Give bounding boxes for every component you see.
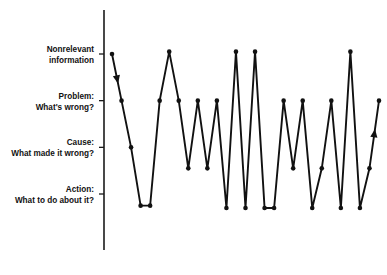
data-point-marker <box>215 98 220 103</box>
y-axis-group <box>99 10 104 250</box>
y-axis-label-2: Problem:What's wrong? <box>36 92 94 112</box>
data-point-marker <box>339 206 344 211</box>
chart-page: NonrelevantinformationProblem:What's wro… <box>0 0 387 275</box>
data-point-marker <box>300 98 305 103</box>
data-point-marker <box>272 206 277 211</box>
y-axis-label-3: Cause:What made it wrong? <box>11 138 94 158</box>
y-axis-label-4: Action:What to do about it? <box>15 185 94 205</box>
data-point-marker <box>176 98 181 103</box>
end-direction-arrow-icon <box>370 129 377 138</box>
data-point-marker <box>243 206 248 211</box>
data-point-marker <box>205 166 210 171</box>
direction-arrow-annotations <box>113 75 378 138</box>
data-point-marker <box>129 145 134 150</box>
data-point-marker <box>234 49 239 54</box>
data-point-marker <box>167 49 172 54</box>
data-point-marker <box>253 49 258 54</box>
data-point-marker <box>310 206 315 211</box>
zigzag-line-chart: NonrelevantinformationProblem:What's wro… <box>0 0 387 275</box>
data-point-marker <box>329 98 334 103</box>
data-point-marker <box>291 166 296 171</box>
y-axis-tick-labels: NonrelevantinformationProblem:What's wro… <box>11 45 94 205</box>
data-point-marker <box>138 203 143 208</box>
data-point-marker <box>281 98 286 103</box>
data-point-marker <box>186 166 191 171</box>
data-point-marker <box>110 52 115 57</box>
data-point-marker <box>224 206 229 211</box>
y-axis-label-1: Nonrelevantinformation <box>47 45 95 65</box>
data-point-marker <box>348 49 353 54</box>
data-point-marker <box>119 98 124 103</box>
start-direction-arrow-icon <box>113 75 120 84</box>
data-point-marker <box>358 206 363 211</box>
data-point-marker <box>367 166 372 171</box>
data-point-marker <box>262 206 267 211</box>
data-point-marker <box>319 166 324 171</box>
data-point-marker <box>148 203 153 208</box>
data-point-marker <box>377 98 382 103</box>
data-point-marker <box>157 98 162 103</box>
data-line-information-flow <box>112 52 379 208</box>
data-series-group <box>110 49 382 210</box>
data-point-marker <box>196 98 201 103</box>
data-point-markers <box>110 49 382 210</box>
